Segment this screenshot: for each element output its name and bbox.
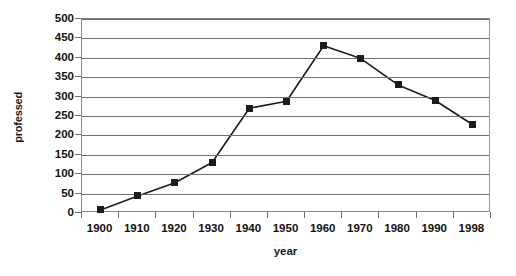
x-axis-tick-mark — [453, 212, 454, 218]
x-axis-tick-mark — [304, 212, 305, 218]
x-axis-tick-mark — [118, 212, 119, 218]
x-axis-tick-marks — [81, 212, 490, 219]
y-axis-tick-label: 350 — [55, 69, 74, 83]
y-axis-tick-labels: 050100150200250300350400450500 — [38, 11, 74, 219]
x-axis-tick-label: 1998 — [451, 221, 491, 236]
x-axis-tick-mark — [378, 212, 379, 218]
line-chart-figure: professed 050100150200250300350400450500… — [0, 0, 516, 276]
x-axis-tick-label: 1980 — [377, 221, 417, 236]
data-point-marker — [395, 81, 402, 88]
data-point-marker — [246, 105, 253, 112]
x-axis-tick-mark — [230, 212, 231, 218]
y-axis-tick-label: 450 — [55, 30, 74, 44]
gridline — [82, 194, 489, 195]
x-axis-tick-label: 1920 — [154, 221, 194, 236]
y-axis-title: professed — [12, 92, 34, 143]
gridline — [82, 19, 489, 20]
y-axis-tick-label: 150 — [55, 147, 74, 161]
x-axis-title: year — [81, 245, 490, 257]
data-point-marker — [320, 42, 327, 49]
gridline — [82, 174, 489, 175]
x-axis-tick-label: 1960 — [303, 221, 343, 236]
x-axis-tick-mark — [341, 212, 342, 218]
x-axis-tick-mark — [490, 212, 491, 218]
data-point-marker — [134, 192, 141, 199]
data-point-marker — [171, 179, 178, 186]
y-axis-tick-label: 400 — [55, 50, 74, 64]
x-axis-tick-mark — [81, 212, 82, 218]
data-point-marker — [432, 97, 439, 104]
x-axis-tick-mark — [267, 212, 268, 218]
y-axis-tick-label: 200 — [55, 127, 74, 141]
data-point-marker — [283, 98, 290, 105]
gridline — [82, 58, 489, 59]
x-axis-tick-label: 1900 — [80, 221, 120, 236]
x-axis-tick-mark — [155, 212, 156, 218]
x-axis-tick-label: 1910 — [117, 221, 157, 236]
y-axis-tick-label: 500 — [55, 11, 74, 25]
y-axis-tick-label: 50 — [61, 186, 74, 200]
x-axis-tick-labels: 1900191019201930194019501960197019801990… — [81, 221, 490, 237]
y-axis-tick-label: 250 — [55, 108, 74, 122]
data-point-marker — [209, 159, 216, 166]
x-axis-tick-label: 1940 — [228, 221, 268, 236]
x-axis-tick-mark — [416, 212, 417, 218]
x-axis-tick-label: 1930 — [191, 221, 231, 236]
gridline — [82, 135, 489, 136]
gridline — [82, 155, 489, 156]
y-axis-tick-label: 100 — [55, 166, 74, 180]
gridline — [82, 38, 489, 39]
gridline — [82, 116, 489, 117]
x-axis-tick-label: 1970 — [340, 221, 380, 236]
y-axis-tick-label: 300 — [55, 89, 74, 103]
x-axis-tick-mark — [193, 212, 194, 218]
x-axis-tick-label: 1990 — [414, 221, 454, 236]
plot-area — [81, 18, 490, 212]
x-axis-tick-label: 1950 — [266, 221, 306, 236]
data-point-marker — [357, 55, 364, 62]
data-point-marker — [469, 121, 476, 128]
gridline — [82, 77, 489, 78]
